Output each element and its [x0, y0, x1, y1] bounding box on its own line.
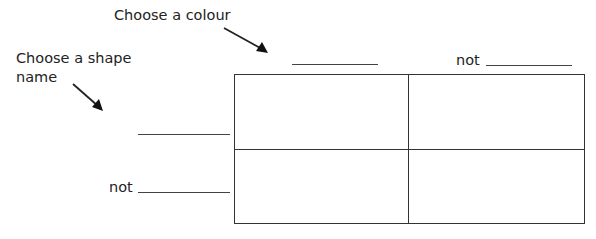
grid-cell-r1c1[interactable] [236, 76, 407, 148]
row-2-blank[interactable] [138, 192, 230, 193]
shape-arrow-icon [73, 84, 103, 111]
colour-arrow-icon [224, 28, 268, 53]
row-2-not-label: not [109, 178, 133, 197]
column-2-not-label: not [456, 51, 480, 70]
column-2-blank[interactable] [486, 65, 572, 66]
row-1-blank[interactable] [138, 134, 230, 135]
column-1-blank[interactable] [292, 64, 378, 65]
grid-cell-r2c1[interactable] [236, 151, 407, 222]
grid-horizontal-divider [234, 149, 585, 150]
grid-cell-r1c2[interactable] [411, 76, 583, 148]
grid-cell-r2c2[interactable] [411, 151, 583, 222]
